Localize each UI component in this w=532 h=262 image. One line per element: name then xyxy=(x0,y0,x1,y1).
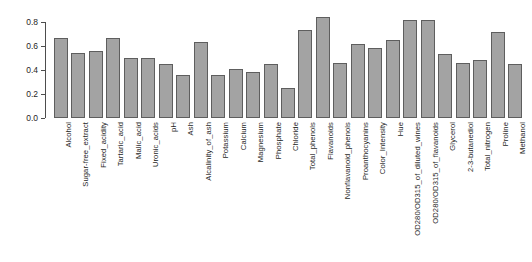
x-axis-tick-label: Proline xyxy=(501,122,510,146)
x-axis-tick-label: Nonflavanoid_phenols xyxy=(343,122,352,199)
x-axis-tick-label: Ash xyxy=(186,122,195,135)
x-axis-tick-labels: AlcoholSugar-free_extractFixed_acidityTa… xyxy=(52,118,524,262)
x-axis-tick-label: Fixed_acidity xyxy=(99,122,108,168)
bar xyxy=(176,75,190,118)
x-axis-tick-label: Phosphate xyxy=(274,122,283,159)
bar xyxy=(159,64,173,118)
barplot-figure: 0.00.20.40.60.8 AlcoholSugar-free_extrac… xyxy=(0,0,532,262)
bar xyxy=(211,75,225,118)
bar xyxy=(368,48,382,118)
x-axis-tick-label: OD280/OD315_of_flavanoids xyxy=(431,122,440,224)
y-axis-tick-label: 0.4 xyxy=(26,65,38,75)
x-axis-tick-label: Alcalinity_of_ash xyxy=(204,122,213,181)
bar xyxy=(246,72,260,118)
bar xyxy=(71,53,85,118)
x-axis-tick-label: Malic_acid xyxy=(134,122,143,159)
x-axis-tick-label: Potassium xyxy=(221,122,230,158)
x-axis-tick-label: Methanol xyxy=(518,122,527,154)
x-axis-tick-label: Color_Intensity xyxy=(378,122,387,174)
y-axis-tick-mark xyxy=(41,46,45,47)
bar-series xyxy=(52,22,524,118)
x-axis-tick-label: Chloride xyxy=(291,122,300,151)
bar xyxy=(229,69,243,118)
y-axis-tick-mark xyxy=(41,70,45,71)
x-axis-tick-label: pH xyxy=(169,122,178,132)
y-axis-tick-labels: 0.00.20.40.60.8 xyxy=(0,0,45,262)
bar xyxy=(403,20,417,118)
y-axis-tick-label: 0.0 xyxy=(26,113,38,123)
bar xyxy=(491,32,505,118)
y-axis-line xyxy=(45,22,46,118)
y-axis-tick-mark xyxy=(41,22,45,23)
bar xyxy=(316,17,330,118)
y-axis-tick-label: 0.2 xyxy=(26,89,38,99)
x-axis-tick-label: Hue xyxy=(396,122,405,136)
bar xyxy=(124,58,138,118)
bar xyxy=(386,40,400,118)
x-axis-tick-label: Total_phenols xyxy=(308,122,317,170)
x-axis-tick-label: Uronic_acids xyxy=(151,122,160,167)
bar xyxy=(508,64,522,118)
y-axis-tick-label: 0.8 xyxy=(26,17,38,27)
y-axis-tick-label: 0.6 xyxy=(26,41,38,51)
bar xyxy=(194,42,208,118)
bar xyxy=(54,38,68,118)
bar xyxy=(264,64,278,118)
y-axis-tick-mark xyxy=(41,118,45,119)
bar xyxy=(141,58,155,118)
x-axis-tick-label: Sugar-free_extract xyxy=(81,122,90,187)
bar xyxy=(106,38,120,118)
bar xyxy=(438,54,452,118)
y-axis-tick-mark xyxy=(41,94,45,95)
x-axis-tick-label: Flavanoids xyxy=(326,122,335,160)
bar xyxy=(281,88,295,118)
x-axis-tick-label: Alcohol xyxy=(64,122,73,148)
bar xyxy=(333,63,347,118)
bar xyxy=(89,51,103,118)
x-axis-tick-label: Calcium xyxy=(239,122,248,150)
x-axis-tick-label: Total_nitrogen xyxy=(483,122,492,171)
bar xyxy=(421,20,435,118)
x-axis-tick-label: Tartaric_acid xyxy=(116,122,125,166)
x-axis-tick-label: Magnesium xyxy=(256,122,265,162)
bar xyxy=(351,44,365,118)
x-axis-tick-label: OD280/OD315_of_diluted_wines xyxy=(413,122,422,236)
bar xyxy=(456,63,470,118)
bar xyxy=(473,60,487,118)
x-axis-tick-label: Proanthocyanins xyxy=(361,122,370,180)
x-axis-tick-label: 2-3-butanediol xyxy=(466,122,475,172)
x-axis-tick-label: Glycerol xyxy=(448,122,457,151)
bar xyxy=(298,30,312,118)
